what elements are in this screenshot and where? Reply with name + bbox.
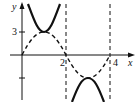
csc-curve-upper — [28, 4, 60, 32]
plot-svg — [0, 0, 138, 102]
y-arrow-icon — [20, 2, 25, 9]
csc-curve-lower — [72, 78, 104, 102]
y-tick-label-3: 3 — [12, 27, 17, 37]
x-axis-label: x — [128, 58, 132, 68]
x-tick-label-4: 4 — [113, 58, 118, 68]
x-tick-label-2: 2 — [60, 58, 65, 68]
graph: y 3 x 2 4 — [0, 0, 138, 102]
y-axis-label: y — [12, 2, 16, 12]
